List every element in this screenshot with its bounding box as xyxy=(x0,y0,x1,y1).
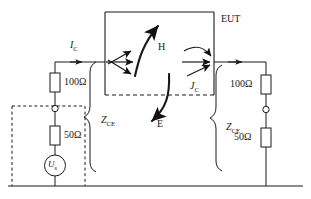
zce-left-subscript: CE xyxy=(107,120,116,127)
h-field-label: H xyxy=(158,42,165,52)
zce-left-label: ZCE xyxy=(101,115,115,128)
circuit-diagram: EUT IC JC H E ZCE ZCE Us 100Ω 50Ω 100Ω 5… xyxy=(0,0,311,199)
source-subscript: s xyxy=(55,165,57,171)
brace-right-zce xyxy=(210,65,222,171)
coupling-arrows-right xyxy=(182,47,211,76)
resistor-left-top xyxy=(50,73,60,92)
resistor-right-top-label: 100Ω xyxy=(230,79,252,89)
eut-label: EUT xyxy=(221,14,240,24)
resistor-right-bottom xyxy=(261,128,271,147)
coupling-arrows-left xyxy=(106,51,133,74)
resistor-right-top xyxy=(261,75,271,94)
resistor-left-top-label: 100Ω xyxy=(64,77,86,87)
resistor-left-bottom xyxy=(50,126,60,145)
current-jc-subscript: C xyxy=(194,86,199,93)
current-ic-label: IC xyxy=(70,40,78,53)
node-right xyxy=(263,106,269,112)
h-field-arrow xyxy=(135,26,158,76)
diagram-canvas xyxy=(0,0,311,199)
current-ic-subscript: C xyxy=(73,45,78,52)
current-jc-label: JC xyxy=(190,81,199,94)
e-field-arrow xyxy=(152,74,169,121)
source-label: Us xyxy=(48,160,57,171)
e-field-label: E xyxy=(157,119,163,129)
resistor-left-bottom-label: 50Ω xyxy=(64,130,81,140)
resistor-right-bottom-label: 50Ω xyxy=(234,132,251,142)
